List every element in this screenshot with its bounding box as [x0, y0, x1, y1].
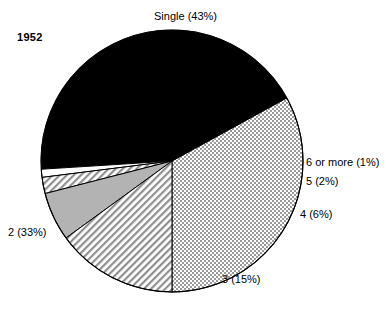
slice-label-3: 3 (15%) [222, 273, 261, 286]
slice-label-4: 4 (6%) [300, 208, 332, 221]
slice-label-single: Single (43%) [154, 10, 217, 23]
slice-label-2: 2 (33%) [8, 226, 47, 239]
slice-label-5: 5 (2%) [306, 175, 338, 188]
pie-chart-figure: 1952 Single (43%) 2 (33%) 3 (15%) 4 (6%)… [0, 0, 386, 315]
pie-slices-group [41, 30, 303, 292]
slice-label-6-or-more: 6 or more (1%) [306, 156, 379, 169]
year-label: 1952 [17, 31, 43, 43]
